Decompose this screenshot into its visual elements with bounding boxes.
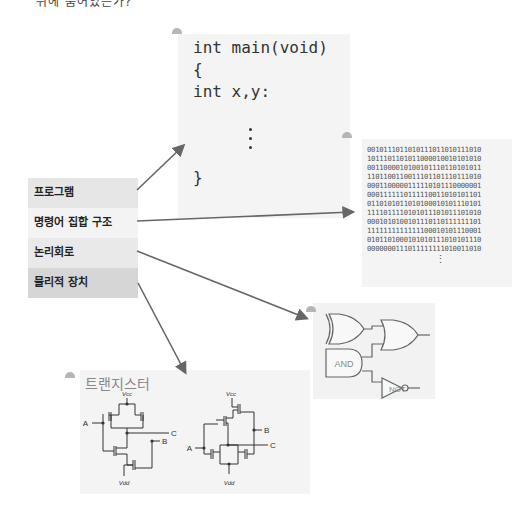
a-label: A [83,419,89,428]
or-gate-icon [381,320,418,350]
vdd-label: Vdd [224,480,235,486]
vdd-label: Vdd [119,480,130,486]
b-label: B [162,437,167,446]
not-label: NOT [389,385,406,394]
and-label: AND [334,359,354,369]
arrow-to-transistor [138,283,185,372]
c-label: C [270,441,276,450]
vcc-label: Vcc [226,391,236,397]
logic-gates-diagram [326,314,430,398]
b-label: B [264,426,269,435]
c-label: C [171,429,177,438]
transistor-circuit-right [195,398,268,474]
transistor-circuit-left [92,398,169,476]
vcc-label: Vcc [122,391,132,397]
diagram-overlay: AND NOT Vcc A C B Vdd [0,0,513,522]
arrow-to-code [137,146,183,190]
arrows [137,146,352,372]
xor-gate-icon [326,314,330,344]
arrow-to-gates [137,251,306,318]
arrow-to-binary [137,212,352,221]
a-label: A [187,444,193,453]
